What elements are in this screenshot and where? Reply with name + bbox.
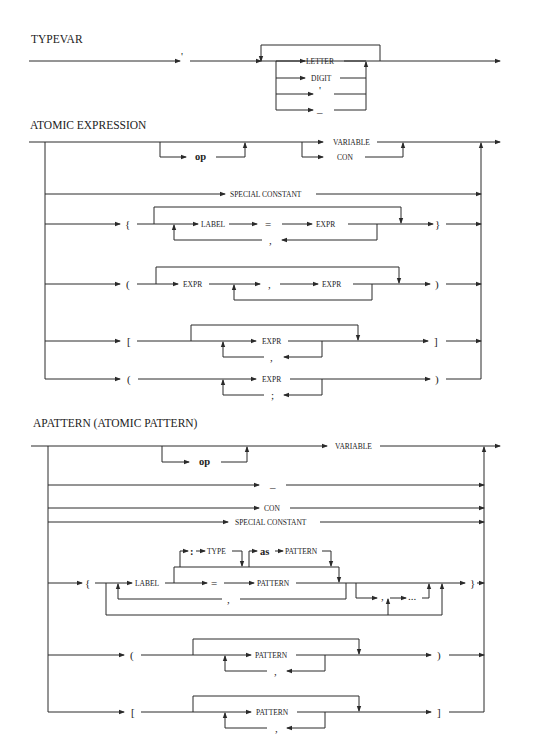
section-title-typevar: TYPEVAR xyxy=(31,33,83,45)
token-equals: = xyxy=(265,218,271,230)
nonterminal-expr: EXPR xyxy=(322,280,341,289)
nonterminal-label: LABEL xyxy=(201,220,226,229)
keyword-op: op xyxy=(195,151,206,162)
apattern-diagram: APATTERN (ATOMIC PATTERN) VARIABLE op _ … xyxy=(31,417,500,734)
token-equals: = xyxy=(211,577,217,589)
section-title-atomic-expression: ATOMIC EXPRESSION xyxy=(30,119,147,131)
token-prime: ' xyxy=(319,84,321,96)
token-wildcard: _ xyxy=(269,477,276,489)
token-wild-comma: , xyxy=(381,590,384,602)
keyword-op: op xyxy=(199,456,210,467)
nonterminal-con: CON xyxy=(337,153,353,162)
token-open-bracket: [ xyxy=(127,335,131,347)
token-comma: , xyxy=(274,665,277,677)
token-close-bracket: ] xyxy=(434,335,438,347)
token-underscore: _ xyxy=(316,102,323,114)
atomic-expression-diagram: ATOMIC EXPRESSION VARIABLE op CON SPECIA… xyxy=(29,119,500,401)
nonterminal-special-constant: SPECIAL CONSTANT xyxy=(230,190,302,199)
nonterminal-letter: LETTER xyxy=(306,57,334,66)
token-quote: ' xyxy=(181,50,183,62)
nonterminal-label: LABEL xyxy=(135,579,160,588)
token-comma: , xyxy=(269,234,272,246)
token-open-bracket: [ xyxy=(131,706,135,718)
keyword-as: as xyxy=(260,546,269,557)
token-open-paren: ( xyxy=(126,278,130,291)
token-comma: , xyxy=(270,351,273,363)
nonterminal-variable: VARIABLE xyxy=(333,138,370,147)
nonterminal-pattern: PATTERN xyxy=(255,651,288,660)
nonterminal-variable: VARIABLE xyxy=(335,442,372,451)
nonterminal-pattern: PATTERN xyxy=(256,708,289,717)
token-close-brace: } xyxy=(470,577,475,589)
section-title-apattern: APATTERN (ATOMIC PATTERN) xyxy=(33,417,198,430)
nonterminal-expr: EXPR xyxy=(316,220,335,229)
token-open-brace: { xyxy=(125,218,130,230)
nonterminal-type: TYPE xyxy=(207,547,226,556)
token-open-paren: ( xyxy=(127,373,131,386)
nonterminal-pattern: PATTERN xyxy=(257,579,290,588)
token-comma: , xyxy=(227,593,230,605)
nonterminal-con: CON xyxy=(264,504,280,513)
token-close-brace: } xyxy=(435,218,440,230)
token-comma: , xyxy=(268,278,271,290)
token-close-paren: ) xyxy=(435,278,439,291)
token-close-paren: ) xyxy=(437,649,441,662)
token-open-brace: { xyxy=(85,577,90,589)
nonterminal-expr: EXPR xyxy=(183,280,202,289)
token-comma: , xyxy=(275,722,278,734)
token-close-paren: ) xyxy=(435,373,439,386)
typevar-diagram: TYPEVAR ' LETTER DIGIT ' _ xyxy=(29,33,500,114)
nonterminal-pattern: PATTERN xyxy=(285,547,318,556)
nonterminal-expr: EXPR xyxy=(262,375,281,384)
token-semicolon: ; xyxy=(271,389,274,401)
nonterminal-digit: DIGIT xyxy=(311,74,332,83)
nonterminal-special-constant: SPECIAL CONSTANT xyxy=(235,518,307,527)
nonterminal-expr: EXPR xyxy=(262,337,281,346)
token-open-paren: ( xyxy=(130,649,134,662)
token-colon: : xyxy=(190,546,194,557)
token-close-bracket: ] xyxy=(437,706,441,718)
token-ellipsis: ... xyxy=(408,590,417,602)
syntax-diagram-page: TYPEVAR ' LETTER DIGIT ' _ ATOMIC EXPRES… xyxy=(0,0,551,753)
